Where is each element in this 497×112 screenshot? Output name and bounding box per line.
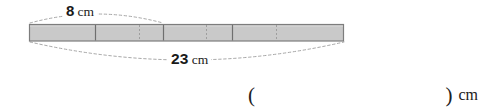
dimension-bottom-value: 23 [171,50,189,67]
dimension-top-unit: cm [78,4,95,19]
answer-input[interactable] [255,84,445,106]
worksheet-page: 8cm 23cm ( ) cm [0,0,497,112]
answer-close-paren: ) [445,85,452,106]
dimension-label-top: 8cm [63,3,97,19]
dimension-top-value: 8 [66,2,75,19]
answer-row: ( ) cm [248,82,478,108]
dimension-label-bottom: 23cm [168,51,211,67]
dimension-bottom-unit: cm [192,52,209,67]
answer-unit-label: cm [458,86,478,104]
answer-open-paren: ( [248,85,255,106]
bar-body [30,25,344,42]
